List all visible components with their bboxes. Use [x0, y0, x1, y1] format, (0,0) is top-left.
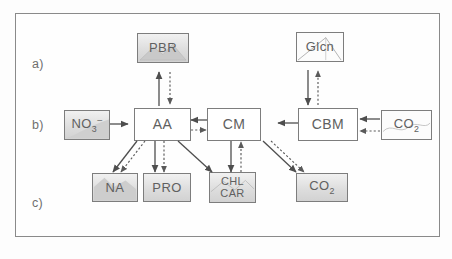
- node-na-label: NA: [106, 181, 125, 194]
- node-glc-label: Glcn: [306, 40, 334, 53]
- node-cm-label: CM: [223, 117, 246, 131]
- node-co2-top-label: CO2: [394, 117, 420, 134]
- node-aa-label: AA: [153, 117, 172, 131]
- node-glc[interactable]: Glcn: [296, 32, 344, 62]
- node-chl-car[interactable]: CHL CAR: [209, 172, 256, 203]
- node-cbm[interactable]: CBM: [298, 108, 358, 141]
- node-no3-label: NO3–: [72, 116, 103, 134]
- row-label-c: c): [32, 196, 43, 210]
- node-pbr-label: PBR: [149, 41, 177, 54]
- node-pro[interactable]: PRO: [143, 173, 191, 202]
- node-co2-bottom-label: CO2: [309, 179, 335, 196]
- node-co2-bottom[interactable]: CO2: [296, 173, 348, 202]
- node-co2-top[interactable]: CO2: [381, 110, 432, 140]
- node-pbr[interactable]: PBR: [137, 33, 189, 63]
- node-chl-line2: CAR: [220, 188, 244, 199]
- node-cm[interactable]: CM: [207, 108, 261, 141]
- row-label-a: a): [32, 57, 44, 71]
- node-aa[interactable]: AA: [134, 108, 191, 141]
- node-na[interactable]: NA: [92, 173, 138, 202]
- diagram-canvas: a) b) c): [0, 0, 452, 259]
- row-label-b: b): [32, 118, 44, 132]
- node-pro-label: PRO: [152, 181, 181, 194]
- node-chl-line1: CHL: [220, 176, 244, 187]
- node-cbm-label: CBM: [312, 117, 344, 131]
- node-chl-car-label: CHL CAR: [220, 176, 244, 198]
- node-no3[interactable]: NO3–: [64, 110, 110, 140]
